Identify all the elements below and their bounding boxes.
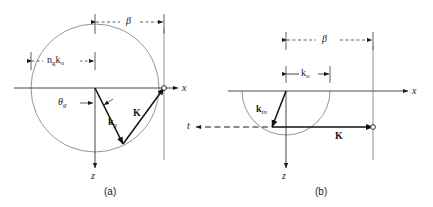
panel-b-endpoint-marker bbox=[371, 125, 376, 130]
panel-b-kin-sub: in bbox=[262, 108, 267, 116]
panel-a-angle-tick bbox=[104, 99, 113, 105]
panel-a-x-axis-label: x bbox=[182, 82, 186, 93]
panel-b-K-label: K bbox=[335, 130, 343, 141]
panel-a-graphics bbox=[14, 14, 178, 168]
panel-a-theta-label: θg bbox=[58, 96, 66, 109]
panel-a-beta-label: β bbox=[126, 15, 131, 26]
panel-a-theta-sub: g bbox=[63, 101, 67, 109]
panel-b-beta-label: β bbox=[322, 33, 327, 44]
panel-a-z-axis-label: z bbox=[91, 170, 95, 181]
panel-b-vector-kin bbox=[272, 91, 286, 127]
panel-b-ko-label: ko bbox=[301, 67, 310, 80]
panel-a-vector-K bbox=[123, 88, 164, 144]
panel-a-K-label: K bbox=[133, 107, 141, 118]
panel-b-ko-sub: o bbox=[306, 72, 310, 80]
panel-a-endpoint-marker bbox=[162, 86, 167, 91]
panel-b-graphics bbox=[196, 32, 408, 168]
panel-a-kg-sub: g bbox=[114, 121, 118, 129]
panel-a-caption: (a) bbox=[104, 186, 116, 197]
panel-b-beta-dimension bbox=[286, 32, 373, 50]
figure-container: β ngko θg kg K x z (a) β ko kin K t x z … bbox=[0, 0, 433, 207]
panel-a-kg-label: kg bbox=[108, 116, 117, 129]
panel-a-ngko-k-sub: o bbox=[61, 59, 65, 67]
panel-b-thickness-label: t bbox=[187, 120, 190, 131]
panel-b-z-axis-label: z bbox=[282, 170, 286, 181]
panel-a-ngko-label: ngko bbox=[47, 54, 64, 67]
panel-b-x-axis-label: x bbox=[412, 85, 416, 96]
panel-b-kin-label: kin bbox=[256, 103, 267, 116]
panel-b-caption: (b) bbox=[315, 186, 327, 197]
